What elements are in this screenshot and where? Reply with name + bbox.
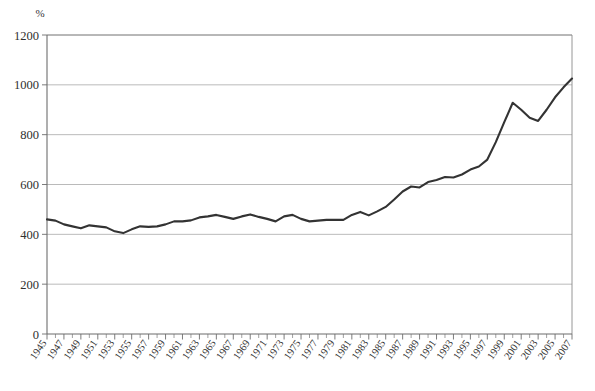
chart-background xyxy=(0,0,595,391)
y-axis-unit-label: % xyxy=(35,7,44,19)
y-tick-label-1200: 1200 xyxy=(14,29,39,43)
chart-container: 020040060080010001200 194519471949195119… xyxy=(0,0,595,391)
y-tick-label-200: 200 xyxy=(20,278,39,292)
y-tick-label-1000: 1000 xyxy=(14,78,39,92)
y-tick-label-800: 800 xyxy=(20,128,39,142)
line-chart: 020040060080010001200 194519471949195119… xyxy=(0,0,595,391)
y-tick-label-600: 600 xyxy=(20,178,39,192)
y-tick-label-400: 400 xyxy=(20,228,39,242)
